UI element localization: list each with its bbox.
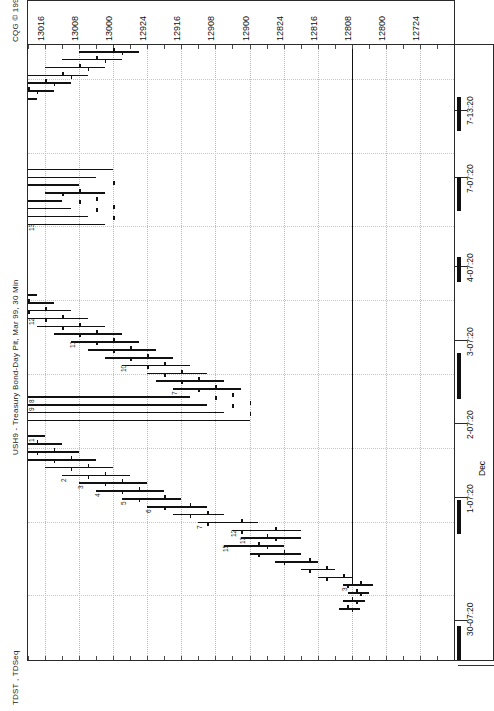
ohlc-bar [343,597,364,604]
time-axis[interactable]: 30-07:201-07:20Dec2-07:203-07:204-07:207… [455,44,494,661]
time-axis-separator [455,497,467,498]
bar-range [27,216,88,218]
ohlc-bar [156,377,224,384]
bar-range [122,365,190,367]
axis-tick [403,45,404,49]
bar-range [27,224,105,226]
time-tick-label: 2-07:20 [465,410,475,439]
ohlc-bar [27,174,96,181]
td-sequential-count: 3 [341,588,348,592]
ohlc-bar [62,56,122,63]
axis-tick [130,656,131,660]
bar-open-tick [105,472,107,476]
axis-tick [301,45,302,49]
bar-range [62,475,130,477]
bar-open-tick [122,479,124,483]
axis-tick [198,656,199,660]
axis-tick [318,656,319,660]
bar-close-tick [147,365,149,369]
bar-range [27,82,71,84]
bar-range [27,90,54,92]
bar-open-tick [139,487,141,491]
time-tick-label: Dec [477,461,487,476]
bar-open-tick [62,72,64,76]
ohlc-bar [27,291,37,298]
axis-tick [284,656,285,660]
axis-tick [198,45,199,49]
ohlc-bar [37,323,105,330]
ohlc-bar [232,527,300,534]
bar-close-tick [181,380,183,384]
price-tick-label: 13008 [70,16,80,41]
bar-close-tick [96,208,98,212]
plot-area[interactable]: 3151312765432198710111213 [27,44,455,661]
ohlc-bar [27,409,224,416]
td-sequential-count: 7 [196,525,203,529]
bar-range [173,388,241,390]
bar-close-tick [258,553,260,557]
td-sequential-count: 11 [69,342,76,349]
ohlc-bar [105,354,173,361]
bar-range [54,333,122,335]
ohlc-bar [27,448,79,455]
bar-close-tick [275,537,277,541]
bar-close-tick [352,608,354,612]
bar-open-tick [343,574,345,578]
axis-tick [79,656,80,660]
ohlc-bar [27,393,190,400]
time-axis-separator [455,340,467,341]
bar-range [27,294,37,296]
bar-range [27,169,113,171]
grid-line-horizontal [28,79,454,80]
axis-tick [28,656,29,660]
td-sequential-count: 7 [171,392,178,396]
axis-tick [267,656,268,660]
bar-close-tick [360,592,362,596]
axis-tick [335,45,336,49]
instrument-title: USH9 - Treasury Bond-Day Pit, Mar 99, 30… [11,279,20,455]
bar-range [27,396,190,398]
bar-open-tick [96,330,98,334]
time-tick-label: 4-07:20 [465,253,475,282]
bar-open-tick [232,393,234,397]
bar-range [88,349,156,351]
bar-open-tick [147,354,149,358]
axis-tick [369,45,370,49]
bar-open-tick [352,597,354,601]
time-axis-separator [455,423,467,424]
bar-open-tick [113,205,115,209]
bar-open-tick [62,315,64,319]
bar-close-tick [164,506,166,510]
axis-tick [250,45,251,49]
ohlc-bar [339,605,360,612]
bar-close-tick [96,341,98,345]
ohlc-bar [27,401,207,408]
price-axis[interactable]: 1301613008130001292412916129081290012824… [27,0,455,44]
td-sequential-count: 15 [222,545,229,552]
price-tick-label: 12808 [343,16,353,41]
axis-tick [267,45,268,49]
bar-close-tick [130,357,132,361]
axis-tick [232,45,233,49]
axis-tick [62,656,63,660]
ohlc-bar [27,79,71,86]
bar-range [27,200,62,202]
bar-range [27,420,250,422]
axis-tick [45,45,46,49]
ohlc-bar [173,511,224,518]
bar-open-tick [258,542,260,546]
ohlc-bar [71,338,139,345]
bar-open-tick [164,495,166,499]
ohlc-bar [27,197,62,204]
ohlc-bar [45,189,105,196]
session-block [457,500,461,534]
session-block [457,257,461,282]
grid-line-horizontal [28,374,454,375]
time-axis-separator [455,620,467,621]
time-tick-label: 7-07:20 [465,164,475,193]
bar-range [27,435,45,437]
ohlc-bar [27,425,28,432]
bar-range [301,569,335,571]
axis-tick [232,656,233,660]
axis-tick [403,656,404,660]
